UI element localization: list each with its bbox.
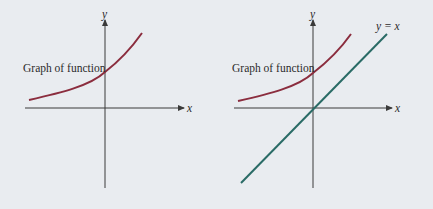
curve-label: Graph of function xyxy=(232,62,315,75)
y-axis-label: y xyxy=(101,8,108,21)
x-axis-label: x xyxy=(394,102,401,114)
y-axis-label: y xyxy=(309,8,316,21)
function-diagram: Graph of function x y Graph of function … xyxy=(0,0,433,209)
x-axis-label: x xyxy=(186,102,193,114)
identity-line-label: y = x xyxy=(375,20,401,33)
curve-label: Graph of function xyxy=(23,62,106,75)
right-panel: Graph of function x y y = x xyxy=(232,8,401,188)
left-panel: Graph of function x y xyxy=(23,8,193,188)
